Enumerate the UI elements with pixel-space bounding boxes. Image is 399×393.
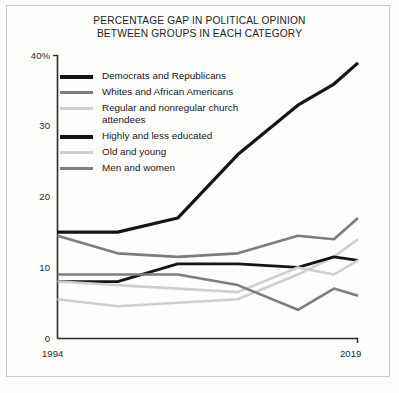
legend-item-old-young: Old and young	[60, 146, 275, 158]
legend-swatch-whites-african-americans	[60, 91, 93, 94]
legend-swatch-men-women	[60, 167, 93, 170]
legend-label-church-attendees: Regular and nonregular church attendees	[102, 102, 238, 127]
legend-label-men-women: Men and women	[102, 162, 175, 174]
legend-item-highly-less-educated: Highly and less educated	[60, 130, 275, 142]
legend-swatch-old-young	[60, 151, 93, 154]
chart-legend: Democrats and Republicans Whites and Afr…	[60, 70, 275, 178]
chart-figure: PERCENTAGE GAP IN POLITICAL OPINION BETW…	[0, 0, 399, 393]
series-line-whites-and-african-americans	[58, 218, 359, 257]
legend-item-church-attendees: Regular and nonregular church attendees	[60, 102, 275, 127]
legend-item-men-women: Men and women	[60, 162, 275, 174]
legend-label-democrats-republicans: Democrats and Republicans	[102, 70, 226, 82]
legend-label-old-young: Old and young	[102, 146, 166, 158]
legend-swatch-democrats-republicans	[60, 75, 93, 79]
legend-item-democrats-republicans: Democrats and Republicans	[60, 70, 275, 82]
legend-swatch-highly-less-educated	[60, 135, 93, 139]
plot-area	[0, 0, 399, 393]
legend-swatch-church-attendees	[60, 107, 93, 110]
legend-label-highly-less-educated: Highly and less educated	[102, 130, 212, 142]
legend-label-whites-african-americans: Whites and African Americans	[102, 86, 233, 98]
legend-item-whites-african-americans: Whites and African Americans	[60, 86, 275, 98]
